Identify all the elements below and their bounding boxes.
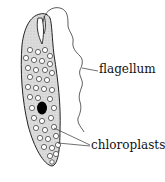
euglena-diagram [0, 0, 165, 182]
chloroplasts-label: chloroplasts [91, 138, 165, 152]
nucleus [37, 102, 47, 115]
flagellum-leader [82, 68, 98, 71]
flagellum-label: flagellum [99, 62, 156, 76]
